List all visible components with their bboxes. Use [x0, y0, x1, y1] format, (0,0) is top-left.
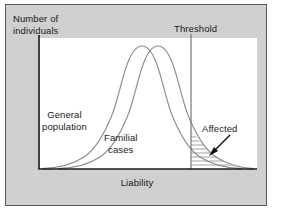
affected-hatched-region [191, 133, 256, 165]
affected-arrow-icon [209, 135, 230, 156]
axis-lines [39, 35, 257, 169]
affected-label: Affected [202, 123, 237, 135]
x-axis-label: Liability [6, 177, 268, 189]
figure-panel: Number of individuals Liability Threshol… [5, 4, 267, 206]
y-axis-label: Number of individuals [13, 13, 58, 36]
curve-general-population [42, 46, 242, 169]
curve-familial-cases [58, 46, 254, 169]
threshold-label: Threshold [174, 23, 217, 35]
general-population-label: General population [42, 109, 87, 132]
familial-cases-label: Familial cases [104, 132, 138, 155]
